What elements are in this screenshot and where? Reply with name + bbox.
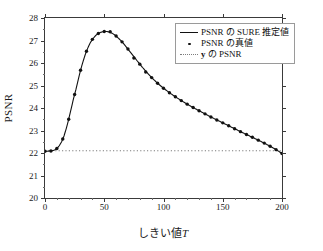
- y-minor-tick: [43, 29, 45, 30]
- x-tick-top: [223, 14, 224, 18]
- x-minor-tick: [152, 198, 153, 200]
- y-minor-tick: [43, 142, 45, 143]
- legend-label-true: PSNR の真値: [201, 38, 253, 49]
- data-point: [138, 62, 141, 65]
- x-minor-tick: [258, 198, 259, 200]
- y-minor-tick: [43, 52, 45, 53]
- y-axis-title: PSNR: [2, 93, 14, 122]
- data-point: [67, 118, 70, 121]
- x-tick-top: [104, 14, 105, 18]
- data-point: [91, 38, 94, 41]
- y-minor-tick: [43, 119, 45, 120]
- x-tick-label: 50: [100, 203, 109, 212]
- x-minor-tick: [69, 198, 70, 200]
- data-point: [191, 106, 194, 109]
- data-point: [168, 91, 171, 94]
- data-point: [268, 145, 271, 148]
- x-minor-tick: [199, 198, 200, 200]
- y-tick-label: 23: [29, 126, 38, 135]
- x-minor-tick: [246, 198, 247, 200]
- data-point: [150, 76, 153, 79]
- x-minor-tick: [81, 198, 82, 200]
- legend-item-sure: PSNR の SURE 推定値: [179, 27, 289, 38]
- data-point: [79, 69, 82, 72]
- data-point: [257, 138, 260, 141]
- y-tick: [41, 131, 45, 132]
- data-point: [221, 121, 224, 124]
- data-point: [274, 148, 277, 151]
- y-minor-tick: [43, 164, 45, 165]
- data-point: [180, 99, 183, 102]
- data-point: [233, 127, 236, 130]
- data-point: [263, 141, 266, 144]
- y-tick-label: 20: [29, 194, 38, 203]
- data-point: [108, 30, 111, 33]
- y-tick-right: [282, 176, 286, 177]
- data-point: [203, 112, 206, 115]
- data-point: [132, 56, 135, 59]
- x-tick-label: 200: [275, 203, 289, 212]
- x-axis-title: しきい値T: [138, 224, 188, 240]
- data-point: [215, 118, 218, 121]
- y-tick-label: 24: [29, 104, 38, 113]
- y-tick-label: 22: [29, 149, 38, 158]
- x-minor-tick: [57, 198, 58, 200]
- chart-legend: PSNR の SURE 推定値 PSNR の真値 y の PSNR: [175, 23, 295, 64]
- x-minor-tick: [175, 198, 176, 200]
- y-tick-label: 27: [29, 36, 38, 45]
- data-point: [174, 95, 177, 98]
- y-tick-right: [282, 131, 286, 132]
- data-point: [73, 93, 76, 96]
- y-tick-right: [282, 86, 286, 87]
- data-point: [103, 30, 106, 33]
- psnr-chart-figure: PSNR しきい値T 20212223242526272805010015020…: [0, 0, 323, 251]
- y-tick-right: [282, 18, 286, 19]
- x-minor-tick: [187, 198, 188, 200]
- x-minor-tick: [128, 198, 129, 200]
- y-tick: [41, 63, 45, 64]
- y-tick-label: 26: [29, 59, 38, 68]
- data-point: [197, 109, 200, 112]
- x-tick-label: 0: [43, 203, 48, 212]
- data-point: [209, 115, 212, 118]
- data-point: [45, 150, 47, 153]
- data-point: [49, 149, 52, 152]
- y-tick-right: [282, 108, 286, 109]
- legend-key-dotted-line: [179, 49, 199, 60]
- data-point: [162, 87, 165, 90]
- y-tick-label: 25: [29, 81, 38, 90]
- legend-label-noisy-text: の PSNR: [206, 49, 242, 59]
- y-minor-tick: [43, 74, 45, 75]
- x-minor-tick: [140, 198, 141, 200]
- y-tick: [41, 176, 45, 177]
- y-tick: [41, 153, 45, 154]
- y-tick-right: [282, 153, 286, 154]
- y-tick: [41, 108, 45, 109]
- x-tick-top: [282, 14, 283, 18]
- data-point: [144, 70, 147, 73]
- y-tick-label: 21: [29, 171, 38, 180]
- data-point: [55, 147, 58, 150]
- x-tick-top: [45, 14, 46, 18]
- legend-item-noisy: y の PSNR: [179, 49, 289, 60]
- legend-label-sure: PSNR の SURE 推定値: [201, 27, 289, 38]
- data-point: [126, 47, 129, 50]
- data-point: [186, 102, 189, 105]
- data-point: [61, 137, 64, 140]
- data-point: [120, 40, 123, 43]
- data-point: [85, 50, 88, 53]
- y-tick: [41, 86, 45, 87]
- x-minor-tick: [116, 198, 117, 200]
- x-tick-label: 100: [157, 203, 171, 212]
- x-minor-tick: [211, 198, 212, 200]
- data-point: [251, 136, 254, 139]
- data-point: [156, 82, 159, 85]
- x-axis-title-symbol: T: [182, 227, 188, 239]
- x-tick-top: [164, 14, 165, 18]
- legend-key-solid-line: [179, 27, 199, 38]
- y-minor-tick: [43, 97, 45, 98]
- x-minor-tick: [235, 198, 236, 200]
- x-minor-tick: [92, 198, 93, 200]
- y-tick: [41, 18, 45, 19]
- data-point: [114, 34, 117, 37]
